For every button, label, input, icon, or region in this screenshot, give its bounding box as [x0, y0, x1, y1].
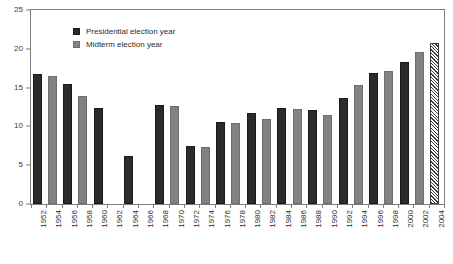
bar-slot	[398, 10, 412, 204]
x-axis-tick-mark	[337, 205, 338, 208]
bar-1974	[201, 147, 210, 204]
x-axis-tick-label: 2002	[413, 210, 427, 218]
bar-slot	[260, 10, 274, 204]
y-axis-tick-label: 0	[19, 200, 23, 208]
y-axis: 0510152025	[0, 0, 30, 214]
x-axis-tick-mark	[77, 205, 78, 208]
legend-swatch-icon	[73, 41, 80, 48]
bar-1972	[186, 146, 195, 204]
bar-1958	[78, 96, 87, 204]
x-axis-tick-mark	[383, 205, 384, 208]
x-axis-tick-mark	[429, 205, 430, 208]
x-axis-tick-label: 1968	[153, 210, 167, 218]
bar-1970	[170, 106, 179, 204]
bar-slot	[306, 10, 320, 204]
legend-item-midterm[interactable]: Midterm election year	[73, 38, 175, 51]
x-axis-tick-mark	[398, 205, 399, 208]
x-axis-tick-label: 1998	[383, 210, 397, 218]
x-axis-tick-mark	[184, 205, 185, 208]
bar-1982	[262, 119, 271, 204]
bar-slot	[276, 10, 290, 204]
x-axis-tick-label: 1972	[184, 210, 198, 218]
legend-item-presidential[interactable]: Presidential election year	[73, 25, 175, 38]
x-axis-tick-mark	[31, 205, 32, 208]
x-axis-tick-mark	[169, 205, 170, 208]
bar-slot	[230, 10, 244, 204]
x-axis-tick-mark	[276, 205, 277, 208]
x-axis-tick-label: 1992	[337, 210, 351, 218]
x-axis-tick-label: 1952	[31, 210, 45, 218]
legend: Presidential election yearMidterm electi…	[73, 25, 175, 51]
bar-slot	[368, 10, 382, 204]
bar-1952	[33, 74, 42, 204]
bar-slot	[184, 10, 198, 204]
x-axis-tick-label: 1976	[215, 210, 229, 218]
x-axis-tick-mark	[352, 205, 353, 208]
x-axis-tick-mark	[62, 205, 63, 208]
x-axis-tick-mark	[153, 205, 154, 208]
bar-1996	[369, 73, 378, 204]
bar-1978	[231, 123, 240, 204]
bar-1976	[216, 122, 225, 204]
bar-slot	[413, 10, 427, 204]
x-axis-tick-label: 1970	[169, 210, 183, 218]
bar-slot	[291, 10, 305, 204]
x-axis-tick-label: 1966	[138, 210, 152, 218]
bar-slot	[199, 10, 213, 204]
bar-slot	[31, 10, 45, 204]
x-axis-tick-label: 1984	[276, 210, 290, 218]
bar-slot	[337, 10, 351, 204]
x-axis-tick-mark	[444, 205, 445, 208]
x-axis-tick-mark	[123, 205, 124, 208]
x-axis-tick-label: 2004	[429, 210, 443, 218]
x-axis-ticks	[31, 205, 444, 209]
bar-slot	[383, 10, 397, 204]
x-axis-tick-mark	[199, 205, 200, 208]
legend-swatch-icon	[73, 28, 80, 35]
bar-slot	[215, 10, 229, 204]
x-axis-tick-mark	[245, 205, 246, 208]
x-axis-tick-label-text: 2004	[438, 210, 446, 228]
x-axis-tick-label: 1960	[92, 210, 106, 218]
x-axis-tick-label: 1990	[322, 210, 336, 218]
legend-label: Midterm election year	[86, 41, 162, 49]
x-axis-tick-label: 1994	[352, 210, 366, 218]
x-axis-tick-mark	[260, 205, 261, 208]
x-axis-tick-label: 1980	[245, 210, 259, 218]
x-axis-tick-label: 1974	[199, 210, 213, 218]
bar-1994	[354, 85, 363, 205]
x-axis-tick-label: 1986	[291, 210, 305, 218]
bar-1960	[94, 108, 103, 204]
y-axis-tick-label: 10	[14, 122, 23, 130]
x-axis-tick-label: 1982	[260, 210, 274, 218]
x-axis-tick-mark	[322, 205, 323, 208]
x-axis-tick-mark	[230, 205, 231, 208]
bar-slot	[322, 10, 336, 204]
bar-2002	[415, 52, 424, 204]
x-axis-tick-label: 1958	[77, 210, 91, 218]
bar-1988	[308, 110, 317, 204]
y-axis-tick-label: 25	[14, 6, 23, 14]
bar-1964	[124, 156, 133, 204]
bar-1984	[277, 108, 286, 204]
bar-1992	[339, 98, 348, 204]
bar-chart: 0510152025 19521954195619581960196219641…	[0, 0, 453, 264]
x-axis-tick-label: 1964	[123, 210, 137, 218]
x-axis-tick-mark	[138, 205, 139, 208]
x-axis-tick-mark	[368, 205, 369, 208]
x-axis-tick-label: 2000	[398, 210, 412, 218]
x-axis-tick-mark	[306, 205, 307, 208]
x-axis-tick-label: 1956	[62, 210, 76, 218]
bar-1990	[323, 115, 332, 204]
bar-2004	[430, 43, 439, 204]
x-axis-tick-mark	[92, 205, 93, 208]
x-axis-tick-label: 1996	[368, 210, 382, 218]
bar-slot	[245, 10, 259, 204]
x-axis-tick-mark	[413, 205, 414, 208]
x-axis-labels: 1952195419561958196019621964196619681970…	[31, 210, 444, 262]
y-axis-tick-label: 5	[19, 161, 23, 169]
x-axis-tick-mark	[215, 205, 216, 208]
legend-label: Presidential election year	[86, 28, 175, 36]
x-axis-tick-label: 1978	[230, 210, 244, 218]
x-axis-tick-label: 1962	[107, 210, 121, 218]
